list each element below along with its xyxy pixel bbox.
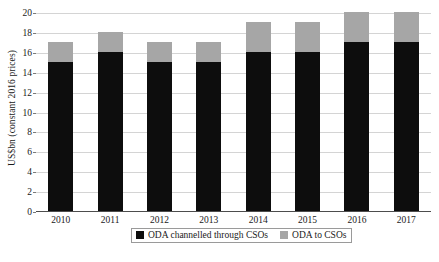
- bar-group[interactable]: [196, 42, 221, 211]
- y-tick-label: 10: [23, 108, 33, 118]
- legend-swatch-black: [136, 231, 144, 239]
- bar-segment-oda-channelled-through-csos[interactable]: [246, 52, 271, 211]
- y-axis-title: US$bn (constant 2016 prices): [7, 8, 17, 208]
- bar-segment-oda-channelled-through-csos[interactable]: [394, 42, 419, 211]
- bar-group[interactable]: [147, 42, 172, 211]
- plot-area: 02468101214161820: [36, 12, 431, 212]
- legend-label-oda-channelled-through-csos: ODA channelled through CSOs: [148, 230, 268, 240]
- y-tick-label: 8: [27, 127, 32, 137]
- bar-segment-oda-to-csos[interactable]: [344, 12, 369, 42]
- x-tick-label: 2010: [51, 215, 70, 225]
- x-tick-label: 2014: [249, 215, 268, 225]
- chart-legend: ODA channelled through CSOs ODA to CSOs: [131, 228, 352, 243]
- bar-segment-oda-to-csos[interactable]: [48, 42, 73, 62]
- bar-segment-oda-to-csos[interactable]: [98, 32, 123, 52]
- bar-segment-oda-to-csos[interactable]: [246, 22, 271, 52]
- legend-item-oda-to-csos[interactable]: ODA to CSOs: [280, 230, 346, 240]
- bar-segment-oda-to-csos[interactable]: [295, 22, 320, 52]
- bar-series-layer: [36, 12, 431, 212]
- stacked-bar-chart: US$bn (constant 2016 prices) 02468101214…: [0, 0, 439, 262]
- bar-group[interactable]: [394, 12, 419, 211]
- x-axis-line: [36, 211, 431, 212]
- y-tick-label: 6: [27, 147, 32, 157]
- y-tick-label: 16: [23, 48, 33, 58]
- bar-segment-oda-to-csos[interactable]: [147, 42, 172, 62]
- bar-segment-oda-channelled-through-csos[interactable]: [48, 62, 73, 211]
- x-tick-label: 2013: [199, 215, 218, 225]
- x-tick-label: 2016: [347, 215, 366, 225]
- legend-item-oda-channelled-through-csos[interactable]: ODA channelled through CSOs: [136, 230, 268, 240]
- bar-group[interactable]: [98, 32, 123, 211]
- bar-segment-oda-to-csos[interactable]: [394, 12, 419, 42]
- y-tick-label: 18: [23, 28, 33, 38]
- y-tick-label: 20: [23, 8, 33, 18]
- x-tick-label: 2011: [101, 215, 120, 225]
- y-tick-label: 2: [27, 187, 32, 197]
- x-tick-label: 2012: [150, 215, 169, 225]
- bar-segment-oda-to-csos[interactable]: [196, 42, 221, 62]
- y-tick-label: 14: [23, 68, 33, 78]
- legend-swatch-gray: [280, 231, 288, 239]
- bar-segment-oda-channelled-through-csos[interactable]: [344, 42, 369, 211]
- y-tick-label: 12: [23, 88, 33, 98]
- x-tick-label: 2015: [298, 215, 317, 225]
- y-tick-label: 4: [27, 167, 32, 177]
- bar-group[interactable]: [295, 22, 320, 211]
- bar-segment-oda-channelled-through-csos[interactable]: [295, 52, 320, 211]
- bar-group[interactable]: [246, 22, 271, 211]
- y-tick-mark: [33, 212, 36, 213]
- bar-group[interactable]: [48, 42, 73, 211]
- bar-segment-oda-channelled-through-csos[interactable]: [147, 62, 172, 211]
- bar-segment-oda-channelled-through-csos[interactable]: [98, 52, 123, 211]
- bar-group[interactable]: [344, 12, 369, 211]
- y-tick-label: 0: [27, 207, 32, 217]
- legend-label-oda-to-csos: ODA to CSOs: [292, 230, 346, 240]
- x-tick-label: 2017: [397, 215, 416, 225]
- bar-segment-oda-channelled-through-csos[interactable]: [196, 62, 221, 211]
